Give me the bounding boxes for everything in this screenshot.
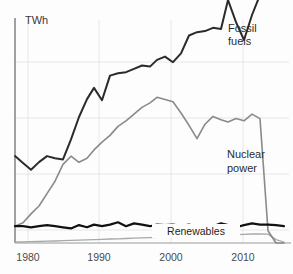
annotation-renewables-label: Renewables (167, 225, 225, 237)
chart-container: TWh Fossil fuels Nuclear power Renewable… (0, 0, 293, 274)
x-tick-label-1990: 1990 (87, 251, 111, 263)
annotation-nuclear-power-line2: power (227, 162, 257, 174)
annotation-fossil-fuels-line1: Fossil (228, 22, 257, 34)
x-tick-label-2010: 2010 (231, 251, 255, 263)
annotation-renewables: Renewables (152, 224, 240, 238)
y-axis-unit-label: TWh (25, 14, 48, 26)
annotation-fossil-fuels-line2: fuels (228, 35, 252, 47)
line-chart: TWh Fossil fuels Nuclear power Renewable… (0, 0, 293, 274)
x-tick-label-2000: 2000 (159, 251, 183, 263)
x-tick-label-1980: 1980 (16, 251, 40, 263)
annotation-nuclear-power-line1: Nuclear (227, 148, 265, 160)
